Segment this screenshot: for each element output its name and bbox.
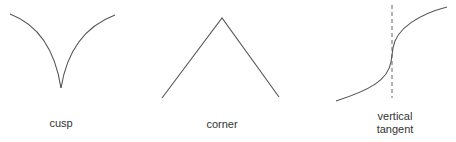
corner-label: corner <box>200 118 244 131</box>
vertical-tangent-label-line1: vertical <box>370 110 420 123</box>
cusp-label: cusp <box>44 117 78 130</box>
vertical-tangent-curve <box>336 5 447 101</box>
cusp-curve <box>10 14 115 88</box>
corner-curve <box>162 18 279 98</box>
vertical-tangent-label: vertical tangent <box>370 110 420 136</box>
vertical-tangent-label-line2: tangent <box>370 123 420 136</box>
